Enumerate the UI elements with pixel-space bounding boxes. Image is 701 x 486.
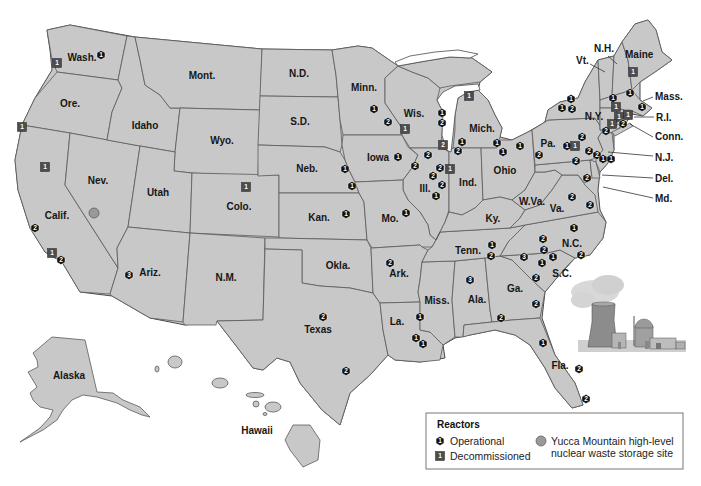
- reactor-count: 1: [418, 313, 422, 320]
- reactor-count: 2: [542, 246, 546, 253]
- reactor-count: 2: [541, 235, 545, 242]
- reactor-count: 2: [59, 256, 63, 263]
- state-label-va: Va.: [550, 203, 565, 214]
- reactor-count: 2: [595, 151, 599, 158]
- operational-reactor-marker: 1: [558, 103, 566, 112]
- reactor-count: 1: [460, 138, 464, 145]
- reactor-count: 1: [501, 148, 505, 155]
- operational-reactor-marker: 1: [394, 152, 402, 161]
- operational-icon: 1: [436, 437, 444, 446]
- reactor-count: 2: [579, 251, 583, 258]
- decommissioned-reactor-marker: 1: [629, 68, 638, 77]
- reactor-count: 1: [43, 163, 47, 170]
- state-label-iowa: Iowa: [367, 152, 390, 163]
- leader-line: [602, 175, 653, 178]
- state-label-s-c: S.C.: [552, 268, 572, 279]
- operational-reactor-marker: 2: [31, 223, 39, 232]
- state-label-n-y: N.Y.: [585, 111, 604, 122]
- operational-reactor-marker: 2: [532, 299, 540, 308]
- state-label-texas: Texas: [304, 324, 332, 335]
- operational-reactor-marker: 1: [499, 147, 507, 156]
- callout-label-maine: Maine: [625, 49, 654, 60]
- operational-reactor-marker: 2: [436, 163, 444, 172]
- leader-line: [630, 124, 653, 137]
- reactor-count: 2: [321, 313, 325, 320]
- reactor-count: 1: [396, 153, 400, 160]
- state-label-n-m: N.M.: [215, 272, 236, 283]
- decommissioned-reactor-marker: 1: [53, 59, 62, 68]
- reactor-count: 2: [456, 147, 460, 154]
- decommissioned-icon: 1: [436, 452, 445, 461]
- operational-reactor-marker: 2: [424, 150, 432, 159]
- reactor-count: 1: [551, 253, 555, 260]
- leader-line: [603, 187, 653, 198]
- us-reactor-map: Wash.Ore.Calif.Nev.IdahoMont.Wyo.UtahAri…: [0, 0, 701, 486]
- operational-reactor-marker: 1: [432, 191, 440, 200]
- leader-line: [608, 152, 653, 156]
- state-label-pa: Pa.: [540, 138, 555, 149]
- reactor-count: 1: [572, 224, 576, 231]
- reactor-count: 2: [588, 201, 592, 208]
- reactor-count: 1: [610, 120, 614, 127]
- state-label-ill: Ill.: [419, 183, 430, 194]
- decommissioned-reactor-marker: 1: [41, 163, 50, 172]
- operational-reactor-marker: 2: [539, 234, 547, 243]
- reactor-count: 1: [490, 241, 494, 248]
- operational-reactor-marker: 2: [540, 245, 548, 254]
- decommissioned-reactor-marker: 1: [242, 183, 251, 192]
- state-label-ariz: Ariz.: [139, 267, 161, 278]
- callout-label-mass: Mass.: [655, 91, 683, 102]
- reactor-count: 1: [448, 165, 452, 172]
- reactor-count: 1: [414, 334, 418, 341]
- decommissioned-reactor-marker: 1: [608, 120, 617, 129]
- state-label-idaho: Idaho: [132, 120, 159, 131]
- operational-reactor-marker: 1: [416, 312, 424, 321]
- nuclear-plant-illustration: [571, 275, 686, 352]
- svg-text:1: 1: [438, 437, 442, 444]
- operational-reactor-marker: 2: [57, 255, 65, 264]
- reactor-count: 2: [574, 157, 578, 164]
- reactor-count: 1: [343, 165, 347, 172]
- operational-reactor-marker: 3: [466, 275, 474, 284]
- reactor-count: 1: [372, 105, 376, 112]
- operational-reactor-marker: 1: [348, 181, 356, 190]
- callout-label-n-h: N.H.: [594, 43, 614, 54]
- operational-reactor-marker: 2: [568, 104, 576, 113]
- svg-text:1: 1: [438, 452, 442, 459]
- reactor-count: 2: [440, 119, 444, 126]
- operational-reactor-marker: 2: [438, 118, 446, 127]
- reactor-count: 2: [440, 181, 444, 188]
- state-label-ind: Ind.: [459, 177, 477, 188]
- reactor-count: 2: [413, 162, 417, 169]
- reactor-count: 2: [489, 252, 493, 259]
- state-label-utah: Utah: [147, 187, 169, 198]
- decommissioned-reactor-marker: 1: [446, 165, 455, 174]
- legend-decommissioned-label: Decommissioned: [450, 450, 531, 462]
- operational-reactor-marker: 2: [532, 273, 540, 282]
- operational-reactor-marker: 2: [582, 394, 590, 403]
- callout-label-del: Del.: [655, 173, 674, 184]
- operational-reactor-marker: 2: [619, 119, 627, 128]
- reactor-count: 2: [344, 367, 348, 374]
- operational-reactor-marker: 1: [493, 138, 501, 147]
- operational-reactor-marker: 2: [535, 150, 543, 159]
- reactor-count: 2: [33, 224, 37, 231]
- reactor-count: 2: [426, 151, 430, 158]
- operational-reactor-marker: 1: [412, 333, 420, 342]
- state-label-okla: Okla.: [326, 260, 351, 271]
- operational-reactor-marker: 1: [549, 252, 557, 261]
- operational-reactor-marker: 1: [539, 338, 547, 347]
- operational-reactor-marker: 1: [599, 154, 607, 163]
- operational-reactor-marker: 1: [438, 108, 446, 117]
- reactor-count: 2: [584, 395, 588, 402]
- reactor-count: 1: [50, 249, 54, 256]
- reactor-count: 3: [468, 276, 472, 283]
- legend-operational-label: Operational: [450, 435, 504, 447]
- operational-reactor-marker: 2: [572, 156, 580, 165]
- state-label-wyo: Wyo.: [210, 135, 234, 146]
- reactor-count: 1: [495, 139, 499, 146]
- operational-reactor-marker: 1: [567, 94, 575, 103]
- operational-reactor-marker: 2: [577, 250, 585, 259]
- reactor-count: 1: [55, 59, 59, 66]
- legend: Reactors 1 Operational 1 Decommissioned …: [426, 413, 683, 469]
